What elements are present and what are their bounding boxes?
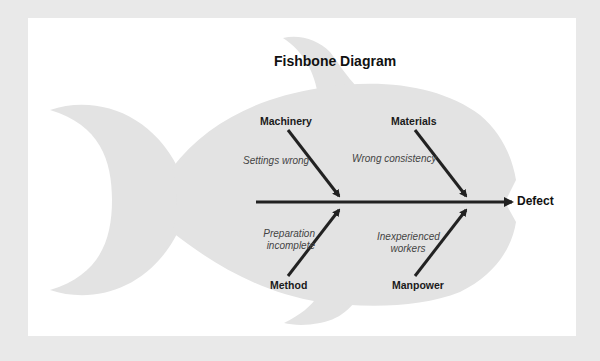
fish-tail-shape [50,105,178,295]
cause-settings-wrong: Settings wrong [243,155,309,167]
cause-inexperienced-workers: Inexperienced workers [377,231,439,254]
diagram-title: Fishbone Diagram [274,53,396,69]
cause-line: incomplete [255,240,315,252]
category-materials: Materials [391,115,437,127]
cause-preparation-incomplete: Preparation incomplete [255,228,315,251]
category-machinery: Machinery [260,115,312,127]
cause-line: Preparation [255,228,315,240]
cause-line: workers [377,243,439,255]
category-manpower: Manpower [392,279,444,291]
category-method: Method [270,279,307,291]
effect-label: Defect [517,194,554,208]
cause-line: Inexperienced [377,231,439,243]
cause-wrong-consistency: Wrong consistency [352,153,436,165]
